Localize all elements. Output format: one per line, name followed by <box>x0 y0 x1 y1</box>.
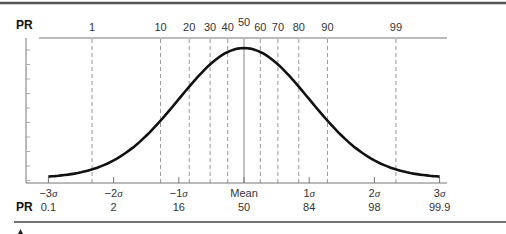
percentile-gridlines <box>92 39 396 183</box>
percentile-label-99: 99 <box>390 21 402 33</box>
sigma-label: 1σ <box>303 187 315 199</box>
bottom-percentile-values: 0.121650849899.9 <box>41 201 451 213</box>
percentile-label-30: 30 <box>204 21 216 33</box>
percentile-label-70: 70 <box>272 21 284 33</box>
pr-value: 84 <box>303 201 315 213</box>
pr-value: 0.1 <box>41 201 56 213</box>
pr-value: 98 <box>368 201 380 213</box>
pr-value: 99.9 <box>429 201 450 213</box>
percentile-label-40: 40 <box>222 21 234 33</box>
sigma-ticks <box>48 177 439 183</box>
sigma-label: 3σ <box>434 187 446 199</box>
sigma-label: −1σ <box>170 187 189 199</box>
percentile-label-10: 10 <box>154 21 166 33</box>
sigma-label: −2σ <box>105 187 124 199</box>
sigma-label: Mean <box>230 187 258 199</box>
sigma-label: 2σ <box>369 187 381 199</box>
bottom-pr-label: PR <box>16 200 33 214</box>
percentile-label-1: 1 <box>89 21 95 33</box>
percentile-label-20: 20 <box>183 21 195 33</box>
percentile-label-80: 80 <box>293 21 305 33</box>
up-arrow-icon <box>18 229 23 234</box>
top-axis-percentile-labels: 110203040506070809099 <box>89 16 402 33</box>
percentile-label-90: 90 <box>321 21 333 33</box>
sigma-label: −3σ <box>39 187 58 199</box>
pr-value: 2 <box>111 201 117 213</box>
sigma-labels: −3σ−2σ−1σMean1σ2σ3σ <box>39 187 446 199</box>
top-pr-label: PR <box>16 18 33 32</box>
pr-value: 50 <box>238 201 250 213</box>
pr-value: 16 <box>173 201 185 213</box>
percentile-label-50: 50 <box>238 16 250 28</box>
normal-distribution-chart: PR 110203040506070809099 −3σ−2σ−1σMean1σ… <box>0 0 506 234</box>
percentile-label-60: 60 <box>254 21 266 33</box>
left-axis-ticks <box>26 50 30 181</box>
